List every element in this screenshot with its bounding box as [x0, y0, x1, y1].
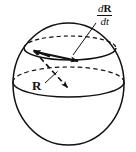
- leader-line-derivative: [73, 23, 96, 55]
- leader-line-radius: [45, 72, 58, 84]
- fraction-numerator: dR: [97, 3, 112, 15]
- denominator-symbol: t: [106, 15, 109, 27]
- equator-back-arc: [13, 67, 124, 82]
- derivative-vector-label: dR dt: [97, 3, 112, 27]
- fraction-denominator: dt: [97, 15, 112, 28]
- latitude-back-arc: [24, 36, 116, 48]
- numerator-symbol: R: [104, 2, 112, 14]
- radius-vector-label: R: [32, 79, 41, 92]
- sphere-vector-figure: R dR dt: [0, 0, 136, 152]
- figure-canvas: [0, 0, 136, 152]
- equator-front-arc: [13, 82, 124, 97]
- fraction: dR dt: [97, 3, 112, 27]
